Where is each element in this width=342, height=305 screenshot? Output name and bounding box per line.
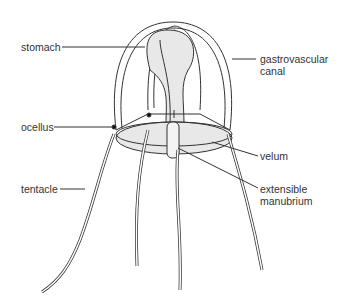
label-extensible: extensible — [260, 183, 307, 195]
label-tentacle: tentacle — [21, 183, 58, 195]
label-ocellus: ocellus — [21, 121, 54, 133]
label-manubrium: manubrium — [260, 195, 313, 207]
tentacle — [42, 134, 114, 292]
ocellus-dot — [112, 125, 116, 129]
label-velum: velum — [260, 150, 288, 162]
label-canal: canal — [260, 65, 285, 77]
label-stomach: stomach — [21, 41, 61, 53]
label-gastrovascular: gastrovascular — [260, 53, 328, 65]
